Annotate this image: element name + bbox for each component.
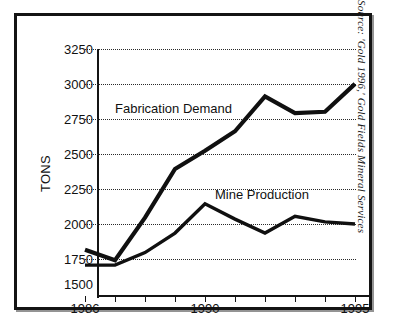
x-tick-label: 1990	[180, 302, 230, 316]
y-tick-label: 3000	[33, 78, 93, 91]
y-tick-label: 2000	[33, 218, 93, 231]
figure-container: TONS 3250 3000 2750 2500 2250 2000 1750 …	[0, 0, 406, 324]
x-tick	[325, 296, 326, 302]
y-tick-label: 2250	[33, 183, 93, 196]
x-tick	[235, 296, 236, 302]
x-tick	[175, 296, 176, 302]
gridline	[85, 84, 356, 85]
y-tick-label: 2750	[33, 113, 93, 126]
series-annotation-fabrication-demand: Fabrication Demand	[115, 102, 232, 116]
gridline	[85, 154, 356, 155]
source-note: Source: 'Gold 1996,' Gold Fields Mineral…	[348, 0, 374, 300]
series-line-mine-production	[85, 204, 355, 265]
x-tick	[295, 296, 296, 302]
y-tick-label: 3250	[33, 43, 93, 56]
gridline	[85, 119, 356, 120]
x-tick-label: 1995	[330, 302, 380, 316]
series-annotation-mine-production: Mine Production	[215, 188, 309, 202]
gridline	[85, 224, 356, 225]
y-axis-line	[97, 49, 99, 298]
y-tick-label: 1500	[33, 278, 93, 291]
gridline	[85, 49, 356, 50]
x-tick	[145, 296, 146, 302]
y-tick-label: 2500	[33, 148, 93, 161]
chart-frame: TONS 3250 3000 2750 2500 2250 2000 1750 …	[14, 13, 372, 310]
x-tick	[265, 296, 266, 302]
y-axis-tick-labels: 3250 3000 2750 2500 2250 2000 1750 1500	[17, 16, 93, 324]
x-tick-label: 1986	[60, 302, 110, 316]
x-tick	[115, 296, 116, 302]
gridline	[85, 259, 356, 260]
y-tick-label: 1750	[33, 253, 93, 266]
